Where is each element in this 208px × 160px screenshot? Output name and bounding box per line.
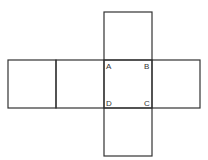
vertex-label-c: C bbox=[144, 99, 150, 108]
square-right bbox=[152, 60, 200, 108]
square-bottom bbox=[104, 108, 152, 156]
vertex-label-a: A bbox=[106, 62, 112, 71]
vertex-label-d: D bbox=[106, 99, 112, 108]
square-left-inner bbox=[56, 60, 104, 108]
cube-net-diagram: A B D C bbox=[0, 0, 208, 160]
square-left-outer bbox=[8, 60, 56, 108]
square-top bbox=[104, 12, 152, 60]
vertex-label-b: B bbox=[144, 62, 149, 71]
